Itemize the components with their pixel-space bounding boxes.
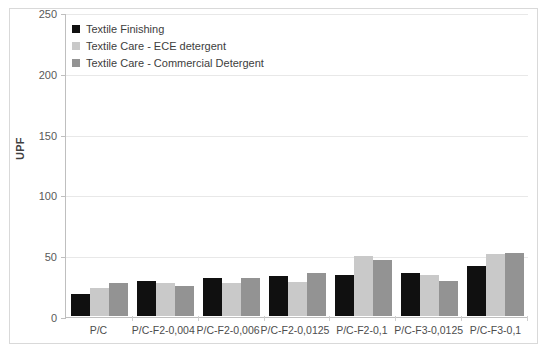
bar-group [330,14,396,316]
legend-swatch-icon [72,25,80,33]
y-tick-mark [61,136,66,137]
bar [401,273,420,316]
legend-label: Textile Care - Commercial Detergent [86,58,264,69]
legend-item: Textile Finishing [72,22,264,36]
y-tick-label: 0 [51,313,57,324]
bar [288,282,307,316]
x-tick-label: P/C-F2-0,0125 [261,325,330,336]
x-axis-tick-labels: P/CP/C-F2-0,004P/C-F2-0,006P/C-F2-0,0125… [66,325,528,336]
bar [335,275,354,316]
y-tick-label: 50 [45,252,57,263]
y-tick-mark [61,196,66,197]
y-tick-label: 150 [39,130,57,141]
chart-figure: UPF 050100150200250 P/CP/C-F2-0,004P/C-F… [0,0,544,353]
bar [467,266,486,316]
x-tick-label: P/C-F3-0,1 [463,325,528,336]
legend-item: Textile Care - Commercial Detergent [72,56,264,70]
x-tick-mark [461,316,462,321]
bar [71,294,90,316]
x-tick-label: P/C-F2-0,006 [196,325,261,336]
x-tick-label: P/C-F3-0,0125 [394,325,463,336]
bar [307,273,326,316]
bar-group [265,14,331,316]
legend-label: Textile Finishing [86,24,164,35]
bar [505,253,524,316]
x-tick-mark [132,316,133,321]
bar-group [462,14,528,316]
bar [439,281,458,316]
y-tick-label: 250 [39,9,57,20]
x-tick-mark [198,316,199,321]
bar [203,278,222,316]
bar [222,283,241,316]
legend-swatch-icon [72,59,80,67]
bar [373,260,392,316]
y-tick-label: 100 [39,191,57,202]
bar [109,283,128,316]
x-tick-mark [527,316,528,321]
bar [90,288,109,316]
y-axis-tick-labels: 050100150200250 [0,14,57,318]
bar [175,286,194,316]
bar [486,254,505,316]
x-tick-mark [264,316,265,321]
x-tick-label: P/C [66,325,131,336]
x-tick-mark [329,316,330,321]
legend-item: Textile Care - ECE detergent [72,39,264,53]
bar-group [396,14,462,316]
bar [241,278,260,316]
bar [269,276,288,316]
bar [156,283,175,316]
x-tick-label: P/C-F2-0,004 [131,325,196,336]
x-tick-label: P/C-F2-0,1 [329,325,394,336]
legend-swatch-icon [72,42,80,50]
y-tick-mark [61,318,66,319]
legend: Textile FinishingTextile Care - ECE dete… [72,22,264,73]
bar [137,281,156,316]
y-tick-mark [61,75,66,76]
y-tick-mark [61,257,66,258]
bar [420,275,439,316]
cropped-caption-sliver [120,0,450,5]
legend-label: Textile Care - ECE detergent [86,41,226,52]
x-tick-mark [395,316,396,321]
bar [354,256,373,316]
y-tick-label: 200 [39,69,57,80]
y-tick-mark [61,14,66,15]
